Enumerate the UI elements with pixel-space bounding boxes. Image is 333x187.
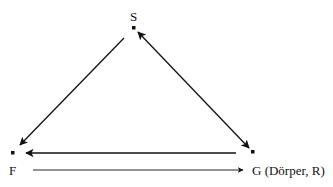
relation-diagram: S F G (Dörper, R) — [0, 0, 333, 187]
node-f-label: F — [9, 163, 16, 178]
node-s-label: S — [130, 9, 137, 24]
node-f-dot — [11, 151, 15, 155]
edge-s-g-bidirectional-arrow — [138, 32, 249, 148]
node-g-dot — [251, 150, 255, 154]
node-s: S — [130, 9, 137, 30]
node-s-dot — [132, 26, 136, 30]
node-g: G (Dörper, R) — [251, 150, 325, 178]
node-f: F — [9, 151, 16, 178]
edge-s-to-f-arrow — [20, 38, 124, 145]
node-g-label: G (Dörper, R) — [252, 163, 325, 178]
